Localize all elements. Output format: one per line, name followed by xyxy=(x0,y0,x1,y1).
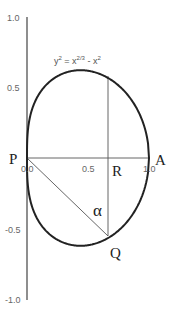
segment-PQ xyxy=(27,158,108,236)
eq-equals: = x xyxy=(62,56,77,66)
point-label-P: P xyxy=(9,151,17,167)
y-tick-neg-0.5: -0.5 xyxy=(5,225,21,235)
eq-minus: - x xyxy=(85,56,98,66)
point-label-A: A xyxy=(155,152,166,168)
x-tick-1.0: 1.0 xyxy=(143,164,156,174)
curve-equation: y2 = x2/3 - x2 xyxy=(54,55,101,66)
eq-rhs-exp: 2 xyxy=(97,55,101,61)
y-tick-neg-1.0: -1.0 xyxy=(5,295,21,305)
y-tick-0.5: 0.5 xyxy=(7,83,20,93)
x-tick-0.5: 0.5 xyxy=(82,164,95,174)
y-tick-1.0: 1.0 xyxy=(7,13,20,23)
point-label-R: R xyxy=(112,163,122,179)
astroid-like-curve-diagram: 1.0 0.5 -0.5 -1.0 0.0 0.5 1.0 P A R Q α … xyxy=(0,0,176,318)
point-label-Q: Q xyxy=(110,245,121,261)
angle-label-alpha: α xyxy=(93,201,102,220)
x-tick-0.0: 0.0 xyxy=(21,164,34,174)
